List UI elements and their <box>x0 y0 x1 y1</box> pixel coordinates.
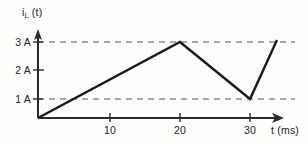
x-tick-label-30: 30 <box>236 124 264 136</box>
x-axis-title: t (ms) <box>271 124 299 136</box>
y-axis-title-suffix: (t) <box>29 6 43 18</box>
current-waveform <box>38 40 277 118</box>
y-tick-label-1a: 1 A <box>0 93 31 105</box>
y-tick-label-2a: 2 A <box>0 64 31 76</box>
y-axis-title: iL (t) <box>22 6 42 20</box>
y-tick-label-3a: 3 A <box>0 36 31 48</box>
x-tick-label-20: 20 <box>166 124 194 136</box>
figure-canvas: iL (t) 3 A 2 A 1 A 10 20 30 t (ms) <box>0 0 308 143</box>
waveform-plot-graphic <box>0 0 308 143</box>
x-tick-label-10: 10 <box>96 124 124 136</box>
